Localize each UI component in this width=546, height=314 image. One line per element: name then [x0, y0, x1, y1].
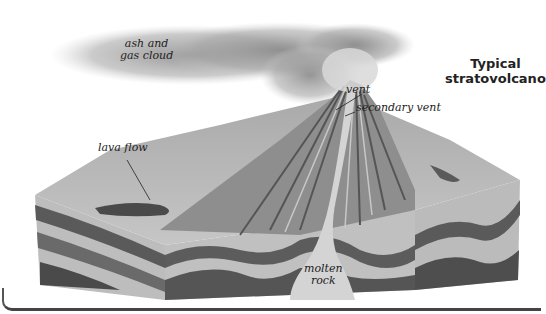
label-lava-flow: lava flow	[98, 142, 148, 154]
label-ash-cloud: ash and gas cloud	[120, 38, 173, 62]
label-molten-line-2: rock	[304, 275, 343, 287]
frame-bottom-border	[2, 288, 541, 311]
label-molten-rock: molten rock	[304, 263, 343, 287]
label-secondary-vent: secondary vent	[356, 102, 441, 114]
label-vent: vent	[346, 84, 370, 96]
title-line-2: stratovolcano	[445, 71, 546, 86]
label-ash-cloud-line-2: gas cloud	[120, 50, 173, 62]
title-line-1: Typical	[445, 56, 546, 71]
diagram-title: Typical stratovolcano	[445, 56, 546, 86]
